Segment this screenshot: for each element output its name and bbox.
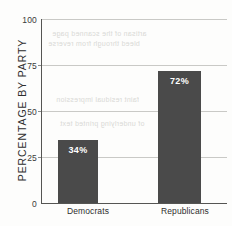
y-tick-label: 50 [3,107,37,117]
y-tick-label: 0 [3,199,37,209]
y-tick-label: 25 [3,153,37,163]
x-tick-label-republicans: Republicans [138,206,232,216]
x-axis-line [41,203,227,204]
bar-democrats[interactable]: 34% [58,140,98,203]
bar-value-label: 72% [158,76,201,86]
y-tick-label: 100 [3,15,37,25]
bar-value-label: 34% [58,145,98,155]
chart-figure: artisan of the scanned page bleed throug… [0,0,232,226]
bar-republicans[interactable]: 72% [158,71,201,204]
y-axis-tick-labels: 100 75 50 25 0 [0,0,37,226]
gridline-75 [41,65,227,66]
y-tick-label: 75 [3,61,37,71]
gridline-100 [41,19,227,20]
y-axis-line [41,19,42,204]
plot-area: 34% 72% [41,19,227,203]
x-tick-label-democrats: Democrats [38,206,138,216]
